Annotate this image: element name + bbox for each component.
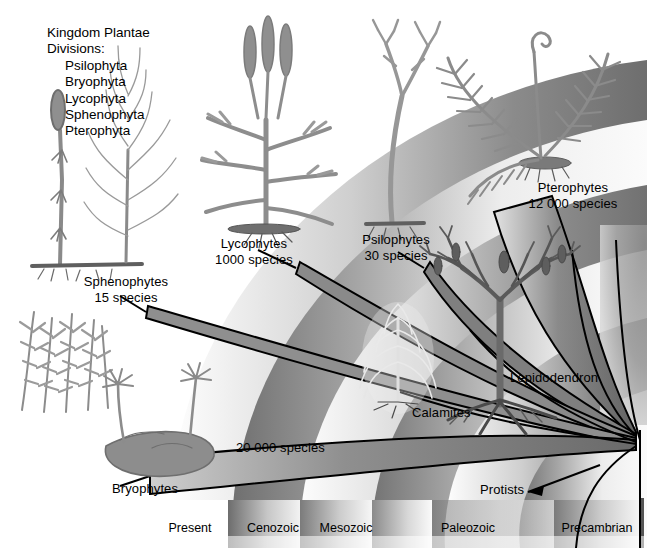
kingdom-divisions-block: Kingdom Plantae Divisions: Psilophyta Br… bbox=[47, 25, 150, 140]
kingdom-line: Kingdom Plantae bbox=[47, 25, 150, 41]
label-psilophytes-name: Psilophytes bbox=[348, 232, 444, 248]
label-bryophytes-count: 20 000 species bbox=[236, 440, 325, 456]
label-psilophytes-count: 30 species bbox=[348, 248, 444, 264]
division-pterophyta: Pterophyta bbox=[47, 123, 150, 139]
label-sphenophytes: Sphenophytes 15 species bbox=[68, 274, 184, 305]
timeline-era-mesozoic: Mesozoic bbox=[310, 521, 382, 535]
label-calamites: Calamites bbox=[412, 405, 471, 421]
label-lycophytes-count: 1000 species bbox=[200, 252, 308, 268]
division-psilophyta: Psilophyta bbox=[47, 58, 150, 74]
illustration-clubmoss bbox=[202, 16, 336, 248]
timeline-present-label: Present bbox=[148, 521, 232, 535]
illustration-lepidodendron bbox=[420, 226, 580, 434]
plant-evolution-diagram: Kingdom Plantae Divisions: Psilophyta Br… bbox=[0, 0, 647, 548]
label-psilophytes: Psilophytes 30 species bbox=[348, 232, 444, 263]
label-protists: Protists bbox=[480, 482, 524, 498]
illustration-fern bbox=[437, 33, 620, 204]
label-bryophytes-name: Bryophytes bbox=[112, 481, 178, 497]
illustration-calamites bbox=[360, 302, 436, 418]
label-lycophytes-name: Lycophytes bbox=[200, 236, 308, 252]
timeline-era-paleozoic: Paleozoic bbox=[430, 521, 506, 535]
divisions-line: Divisions: bbox=[47, 41, 150, 57]
illustration-psilophyte bbox=[366, 20, 440, 240]
illustration-moss bbox=[20, 312, 112, 412]
label-sphenophytes-count: 15 species bbox=[68, 290, 184, 306]
label-lepidodendron: Lepidodendron bbox=[510, 370, 598, 386]
label-sphenophytes-name: Sphenophytes bbox=[68, 274, 184, 290]
illustration-liverwort bbox=[103, 363, 214, 476]
division-lycophyta: Lycophyta bbox=[47, 91, 150, 107]
division-bryophyta: Bryophyta bbox=[47, 74, 150, 90]
timeline-era-cenozoic: Cenozoic bbox=[238, 521, 308, 535]
label-lycophytes: Lycophytes 1000 species bbox=[200, 236, 308, 267]
label-pterophytes: Pterophytes 12 000 species bbox=[516, 180, 630, 211]
label-pterophytes-name: Pterophytes bbox=[516, 180, 630, 196]
label-pterophytes-count: 12 000 species bbox=[516, 196, 630, 212]
division-sphenophyta: Sphenophyta bbox=[47, 107, 150, 123]
timeline-era-precambrian: Precambrian bbox=[551, 521, 643, 535]
